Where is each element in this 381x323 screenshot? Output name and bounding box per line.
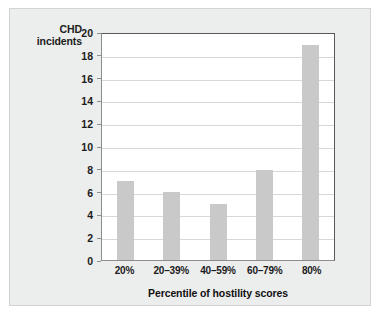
chart-figure: CHD incidents 0 2 4 6 8 10 12 14 16 18 2…: [0, 0, 381, 323]
bar-slot: [241, 34, 287, 260]
bar: [163, 192, 180, 260]
x-tick-label: 80%: [288, 265, 335, 276]
y-tick-label: 18: [81, 50, 97, 62]
x-axis-title: Percentile of hostility scores: [101, 287, 335, 299]
bar-slot: [288, 34, 334, 260]
x-tick-label: 20%: [101, 265, 148, 276]
y-tick-label: 8: [87, 164, 97, 176]
y-tick-label: 0: [87, 255, 97, 267]
y-tick-label: 14: [81, 95, 97, 107]
x-axis-tick-labels: 20% 20–39% 40–59% 60–79% 80%: [101, 265, 335, 276]
bar: [210, 204, 227, 261]
bar-slot: [195, 34, 241, 260]
bar: [256, 170, 273, 260]
y-tick-label: 16: [81, 73, 97, 85]
bar-slot: [102, 34, 148, 260]
y-tick-label: 4: [87, 209, 97, 221]
bar: [302, 45, 319, 260]
bar-slot: [148, 34, 194, 260]
y-tick-label: 12: [81, 118, 97, 130]
y-tick-label: 6: [87, 187, 97, 199]
y-tick-label: 10: [81, 141, 97, 153]
plot-area: [101, 33, 335, 261]
y-tick-label: 20: [81, 27, 97, 39]
x-tick-label: 20–39%: [148, 265, 195, 276]
y-axis-ticks: 0 2 4 6 8 10 12 14 16 18 20: [0, 33, 101, 261]
bar-series: [102, 34, 334, 260]
x-tick-label: 60–79%: [241, 265, 288, 276]
x-tick-label: 40–59%: [195, 265, 242, 276]
bar: [117, 181, 134, 260]
y-tick-label: 2: [87, 232, 97, 244]
